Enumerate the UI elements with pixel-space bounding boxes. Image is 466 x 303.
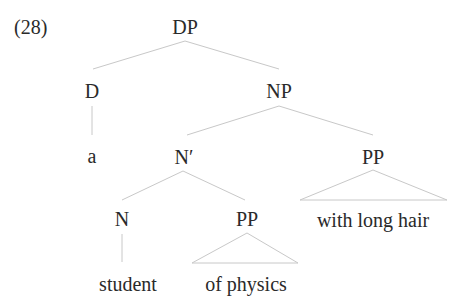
branch-nbar-n — [122, 171, 183, 200]
node-n: N — [115, 209, 129, 229]
branch-dp-d — [93, 41, 185, 69]
example-number: (28) — [14, 17, 47, 37]
leaf-student: student — [99, 274, 157, 294]
branch-nbar-pp — [183, 171, 245, 200]
node-np: NP — [266, 81, 292, 101]
node-dp: DP — [172, 17, 198, 37]
node-d: D — [85, 81, 99, 101]
node-pp-complement: PP — [236, 209, 258, 229]
triangle-pp-complement — [192, 233, 298, 263]
triangle-pp-adjunct — [300, 170, 447, 200]
leaf-of-physics: of physics — [205, 274, 287, 294]
node-pp-adjunct: PP — [362, 147, 384, 167]
branch-np-nbar — [187, 106, 279, 135]
node-n-bar: N′ — [175, 147, 194, 167]
leaf-a: a — [88, 146, 97, 166]
tree-branches — [0, 0, 466, 303]
branch-np-pp — [279, 106, 373, 135]
branch-dp-np — [185, 41, 279, 69]
leaf-with-long-hair: with long hair — [317, 210, 429, 230]
